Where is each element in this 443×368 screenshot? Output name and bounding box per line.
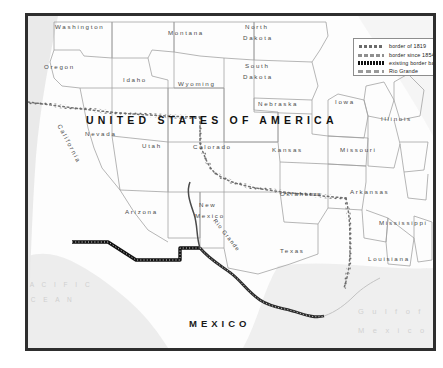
legend-label-rio-grande: Rio Grande — [389, 68, 418, 74]
map-container: border of 1819 border since 1854 existin… — [0, 0, 443, 368]
legend-label-border-of-1819: border of 1819 — [389, 43, 426, 49]
map-legend: border of 1819 border since 1854 existin… — [353, 38, 436, 76]
legend-key-dashed-icon — [358, 54, 384, 57]
legend-key-river-icon — [358, 70, 384, 73]
legend-item-existing-border-barrier: existing border barrier — [358, 59, 436, 67]
legend-label-existing-border-barrier: existing border barrier — [389, 60, 436, 66]
legend-key-dotted-icon — [358, 44, 384, 49]
legend-item-rio-grande: Rio Grande — [358, 67, 436, 75]
legend-item-border-since-1854: border since 1854 — [358, 50, 436, 58]
legend-key-barrier-icon — [358, 61, 384, 65]
legend-item-border-of-1819: border of 1819 — [358, 42, 436, 50]
legend-label-border-since-1854: border since 1854 — [389, 52, 435, 58]
map-frame: border of 1819 border since 1854 existin… — [25, 13, 436, 351]
